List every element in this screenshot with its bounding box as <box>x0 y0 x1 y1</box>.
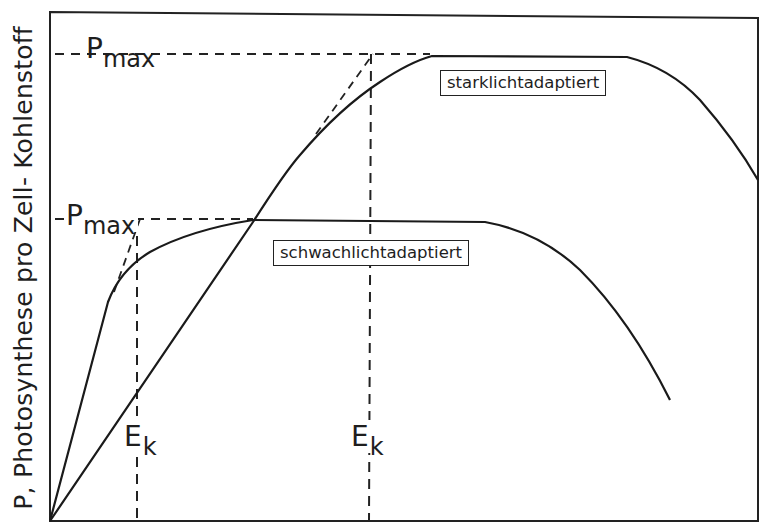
ek-weak-symbol: E <box>124 420 142 453</box>
ek-weak-subscript: k <box>143 433 157 461</box>
ek-strong-label: Ek <box>351 420 384 453</box>
pmax-lower-symbol: P <box>66 199 83 232</box>
legend-box-schwachlichtadaptiert: schwachlichtadaptiert <box>273 240 469 266</box>
ek-strong-symbol: E <box>351 420 369 453</box>
pmax-lower-subscript: max <box>83 212 135 240</box>
ek-strong-subscript: k <box>370 433 384 461</box>
pmax-upper-subscript: max <box>103 45 155 73</box>
pmax-lower-label: Pmax <box>66 199 138 232</box>
y-axis-label: P, Photosynthese pro Zell- Kohlenstoff <box>4 8 44 528</box>
pmax-upper-symbol: P <box>86 32 103 65</box>
pmax-upper-label: Pmax <box>86 32 155 65</box>
legend-box-starklichtadaptiert: starklichtadaptiert <box>440 70 606 96</box>
ek-weak-label: Ek <box>124 420 157 453</box>
